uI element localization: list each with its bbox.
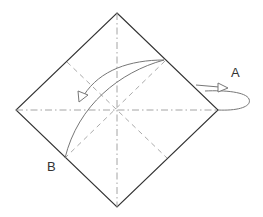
label-a: A <box>231 66 240 79</box>
origami-diagram <box>0 0 263 217</box>
turn-over-arrow-line <box>196 85 219 87</box>
label-b: B <box>47 160 56 173</box>
